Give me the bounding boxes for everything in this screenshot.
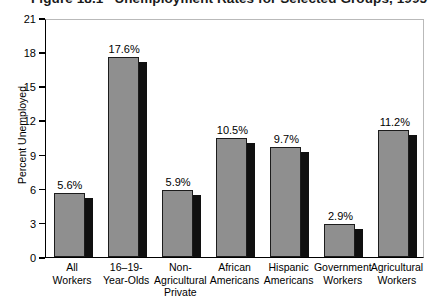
bar-value-label: 2.9% [328,210,353,222]
y-axis-tick-label: 12 [24,115,36,127]
bar-shadow [247,143,255,258]
y-axis-tick-label: 21 [24,13,36,25]
y-axis-tick-label: 9 [30,150,36,162]
bar[interactable]: 11.2% [378,130,417,257]
bar[interactable]: 9.7% [270,147,309,257]
y-axis-tick: 12 [0,115,45,127]
bar-group[interactable]: 11.2% [371,18,425,257]
y-axis-tick: 3 [0,218,45,230]
bar-shadow [409,135,417,257]
bar[interactable]: 5.9% [162,190,201,257]
bar-front[interactable]: 9.7% [270,147,301,257]
bar-group[interactable]: 5.9% [154,18,208,257]
y-axis-tick-label: 6 [30,184,36,196]
x-axis-category-line: Private [147,286,213,297]
y-axis-tick-label: 15 [24,81,36,93]
bar-value-label: 10.5% [217,124,248,136]
bar-group[interactable]: 10.5% [208,18,262,257]
bar-front[interactable]: 10.5% [216,138,247,258]
bar-group[interactable]: 17.6% [100,18,154,257]
unemployment-bar-chart: Percent Unemployed 036912151821 5.6%17.6… [0,0,435,297]
bar-front[interactable]: 2.9% [324,224,355,257]
x-axis-category-label: AgriculturalWorkers [364,261,430,286]
y-axis-tick-label: 18 [24,47,36,59]
bar-value-label: 9.7% [274,133,299,145]
x-axis-category-line: Workers [364,274,430,287]
bar-value-label: 5.6% [57,179,82,191]
bar-value-label: 5.9% [166,176,191,188]
bar-front[interactable]: 11.2% [378,130,409,257]
bar-group[interactable]: 5.6% [46,18,100,257]
y-axis-tick: 18 [0,47,45,59]
bar-group[interactable]: 2.9% [317,18,371,257]
y-axis-tick: 9 [0,150,45,162]
y-axis-tick: 6 [0,184,45,196]
y-axis-tick-label: 0 [30,252,36,264]
bar-front[interactable]: 5.6% [54,193,85,257]
bar-shadow [301,152,309,257]
plot-area: 5.6%17.6%5.9%10.5%9.7%2.9%11.2% [45,19,424,258]
bar-shadow [193,195,201,257]
bar-value-label: 17.6% [109,43,140,55]
bar[interactable]: 2.9% [324,224,363,257]
y-axis-tick-label: 3 [30,218,36,230]
bar-group[interactable]: 9.7% [263,18,317,257]
bar-shadow [85,198,93,257]
bar[interactable]: 5.6% [54,193,93,257]
bar-value-label: 11.2% [380,116,410,128]
y-axis-tick: 21 [0,13,45,25]
bar-shadow [139,62,147,257]
y-axis-tick: 15 [0,81,45,93]
bar-front[interactable]: 17.6% [108,57,139,257]
bar-shadow [355,229,363,257]
x-axis-category-line: Agricultural [364,261,430,274]
bar-front[interactable]: 5.9% [162,190,193,257]
bar[interactable]: 17.6% [108,57,147,257]
bar[interactable]: 10.5% [216,138,255,258]
